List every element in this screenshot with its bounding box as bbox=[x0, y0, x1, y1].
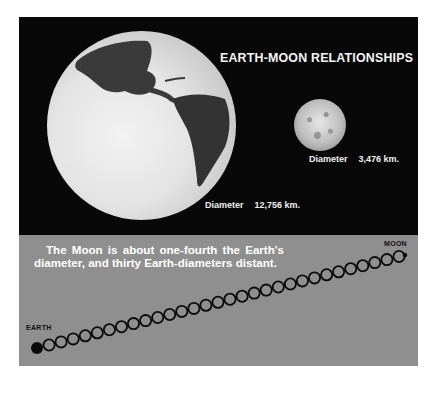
earth-diameter-ring-icon bbox=[224, 294, 235, 305]
earth-diameter-ring-icon bbox=[140, 315, 151, 326]
earth-diameter-ring-icon bbox=[44, 339, 55, 350]
earth-diameter-ring-icon bbox=[92, 327, 103, 338]
earth-diameter-ring-icon bbox=[321, 269, 332, 280]
earth-diameter-ring-icon bbox=[249, 288, 260, 299]
earth-diameter-ring-icon bbox=[164, 309, 175, 320]
earth-diameter-ring-icon bbox=[237, 291, 248, 302]
earth-diameter-ring-icon bbox=[80, 330, 91, 341]
earth-diameter-ring-icon bbox=[212, 297, 223, 308]
earth-diameter-ring-icon bbox=[116, 321, 127, 332]
earth-diameter-ring-icon bbox=[261, 285, 272, 296]
earth-diameter-ring-icon bbox=[381, 254, 392, 265]
earth-diameter-ring-icon bbox=[333, 266, 344, 277]
earth-diameter-ring-icon bbox=[176, 306, 187, 317]
earth-diameter-ring-icon bbox=[152, 312, 163, 323]
moon-dot-icon bbox=[403, 253, 407, 257]
earth-diameter-ring-icon bbox=[104, 324, 115, 335]
earth-diameter-ring-icon bbox=[297, 275, 308, 286]
earth-diameter-ring-icon bbox=[68, 333, 79, 344]
earth-diameter-ring-icon bbox=[357, 260, 368, 271]
earth-diameter-chain bbox=[0, 0, 439, 394]
earth-diameter-ring-icon bbox=[200, 300, 211, 311]
earth-diameter-ring-icon bbox=[188, 303, 199, 314]
earth-dot-icon bbox=[31, 342, 43, 354]
earth-diameter-ring-icon bbox=[285, 278, 296, 289]
earth-diameter-ring-icon bbox=[345, 263, 356, 274]
earth-diameter-ring-icon bbox=[56, 336, 67, 347]
earth-diameter-ring-icon bbox=[309, 272, 320, 283]
earth-diameter-ring-icon bbox=[128, 318, 139, 329]
earth-diameter-ring-icon bbox=[369, 257, 380, 268]
earth-diameter-ring-icon bbox=[273, 281, 284, 292]
earth-diameter-ring-icon bbox=[393, 251, 404, 262]
